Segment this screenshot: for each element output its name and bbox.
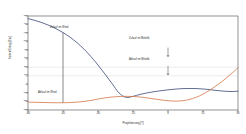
annotation-zulauf-im-wind: Zulauf im Wind (50, 27, 68, 30)
annotation-ablauf-im-mittelbereich: Ablauf im Mittelb. (129, 59, 150, 62)
x-tick-label: -60 (19, 113, 37, 116)
x-tick-label: -45 (54, 113, 72, 116)
x-tick-labels: -60-45-30-1501530 (0, 0, 246, 134)
annotation-ablauf-im-wind: Ablauf im Wind (38, 92, 57, 95)
annotation-zulauf-im-mittelbereich: Zulauf im Mittelb. (129, 38, 150, 41)
x-tick-label: -30 (89, 113, 107, 116)
x-tick-label: 15 (194, 113, 212, 116)
x-tick-label: 30 (229, 113, 246, 116)
x-tick-label: 0 (159, 113, 177, 116)
chart-figure: Kosten/Ertrag [Eur] Projektierung [?] -3… (0, 0, 246, 134)
x-tick-label: -15 (124, 113, 142, 116)
